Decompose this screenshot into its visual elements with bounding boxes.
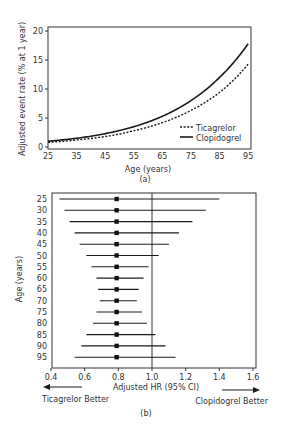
row-age-label: 30 [37,206,47,215]
x-tick-label: 25 [43,152,53,161]
row-age-label: 65 [37,285,47,294]
forest-rows: 253035404550556065707580859095 [37,195,220,362]
hr-point [114,219,118,223]
panel-label-b: (b) [140,409,151,418]
row-age-label: 80 [37,319,47,328]
row-age-label: 90 [37,342,47,351]
y-tick-label: 15 [33,56,43,65]
x-tick-label: 1.6 [247,373,260,382]
x-axis-label: Age (years) [125,165,171,174]
x-tick-label: 45 [100,152,110,161]
forest-row: 45 [37,240,169,249]
x-tick-label: 35 [71,152,81,161]
hr-point [114,208,118,212]
y-tick-label: 10 [33,85,43,94]
row-age-label: 40 [37,229,47,238]
row-age-label: 60 [37,274,47,283]
x-tick-label: 1.4 [213,373,226,382]
hr-point [114,332,118,336]
legend-ticagrelor-label: Ticagrelor [195,124,236,133]
row-age-label: 45 [37,240,47,249]
forest-row: 25 [37,195,220,204]
hr-point [114,310,118,314]
x-tick-label: 1.2 [179,373,192,382]
row-age-label: 35 [37,218,47,227]
y-axis-ticks: 05101520 [33,27,48,152]
hr-point [114,321,118,325]
forest-row: 40 [37,229,179,238]
forest-row: 80 [37,319,147,328]
hr-point [114,231,118,235]
forest-row: 30 [37,206,206,215]
forest-row: 90 [37,342,166,351]
x-tick-label: 0.6 [78,373,91,382]
hr-point [114,276,118,280]
forest-row: 60 [37,274,144,283]
x-tick-label: 85 [214,152,224,161]
row-age-label: 75 [37,308,47,317]
forest-row: 75 [37,308,142,317]
forest-row: 50 [37,252,159,261]
x-tick-label: 65 [157,152,167,161]
row-age-label: 50 [37,252,47,261]
y-tick-label: 0 [38,143,43,152]
figure: 05101520 2535455565758595 Ticagrelor Clo… [0,0,282,434]
row-age-label: 95 [37,353,47,362]
row-age-label: 25 [37,195,47,204]
forest-row: 55 [37,263,149,272]
row-age-label: 55 [37,263,47,272]
event-rate-chart: 05101520 2535455565758595 Ticagrelor Clo… [18,22,253,184]
legend-clopidogrel-label: Clopidogrel [196,134,241,143]
hr-point [114,344,118,348]
x-tick-label: 0.4 [45,373,58,382]
ticagrelor-better-arrow [43,384,82,390]
hr-point [114,299,118,303]
hr-point [114,242,118,246]
hr-point [114,265,118,269]
forest-row: 35 [37,218,193,227]
clopidogrel-better-arrow [222,387,260,393]
y-tick-label: 5 [38,114,43,123]
row-age-label: 70 [37,297,47,306]
x-tick-label: 0.8 [112,373,125,382]
x-tick-label: 75 [186,152,196,161]
row-age-label: 85 [37,331,47,340]
legend: Ticagrelor Clopidogrel [180,124,241,143]
hr-point [114,287,118,291]
x-axis-label: Adjusted HR (95% CI) [113,383,199,392]
panel-label-a: (a) [139,175,150,184]
y-tick-label: 20 [33,27,43,36]
hr-point [114,355,118,359]
x-tick-label: 55 [129,152,139,161]
x-tick-label: 95 [243,152,253,161]
forest-plot: 253035404550556065707580859095 0.40.60.8… [15,193,269,418]
x-axis-ticks: 0.40.60.81.01.21.41.6 [45,368,260,382]
plot-frame [52,193,256,368]
y-axis-label: Adjusted event rate (% at 1 year) [18,22,27,156]
forest-row: 85 [37,331,156,340]
hr-point [114,197,118,201]
clopidogrel-better-label: Clopidogrel Better [195,397,268,406]
ticagrelor-better-label: Ticagrelor Better [41,395,110,404]
x-tick-label: 1.0 [146,373,159,382]
y-axis-label: Age (years) [15,256,24,302]
hr-point [114,253,118,257]
x-axis-ticks: 2535455565758595 [43,152,253,161]
forest-row: 95 [37,353,176,362]
